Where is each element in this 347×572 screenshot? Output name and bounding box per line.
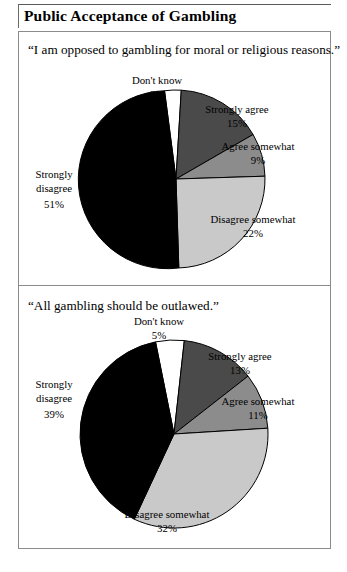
label-strongly-disagree-outlawed: Strongly disagree 39% (18, 378, 90, 422)
panel-opposed-quote: “I am opposed to gambling for moral or r… (28, 42, 340, 58)
label-percent: 39% (18, 408, 90, 422)
label-strongly-agree-outlawed: Strongly agree 13% (190, 350, 290, 377)
label-percent: 15% (187, 117, 287, 131)
label-name: Don't know (114, 315, 204, 329)
label-dont-know-opposed: Don't know 3% (112, 74, 202, 101)
label-name-line2: disagree (18, 182, 90, 196)
label-name-line2: disagree (18, 392, 90, 406)
title-top-rule (18, 4, 331, 5)
label-name: Disagree somewhat (198, 213, 308, 227)
label-dont-know-outlawed: Don't know 5% (114, 315, 204, 342)
label-name: Agree somewhat (206, 140, 310, 154)
slice-strongly-disagree (78, 91, 179, 269)
label-strongly-agree-opposed: Strongly agree 15% (187, 103, 287, 130)
panel-outlawed-quote: “All gambling should be outlawed.” (28, 298, 219, 314)
label-agree-somewhat-outlawed: Agree somewhat 11% (206, 395, 310, 422)
label-name: Don't know (112, 74, 202, 88)
label-percent: 3% (112, 88, 202, 102)
page-title: Public Acceptance of Gambling (24, 6, 236, 26)
label-name: Agree somewhat (206, 395, 310, 409)
label-percent: 9% (206, 154, 310, 168)
label-percent: 51% (18, 198, 90, 212)
label-name: Strongly agree (187, 103, 287, 117)
title-left-rule (18, 4, 19, 28)
label-name: Strongly agree (190, 350, 290, 364)
label-name-line1: Strongly (18, 168, 90, 182)
label-name-line1: Strongly (18, 378, 90, 392)
label-strongly-disagree-opposed: Strongly disagree 51% (18, 168, 90, 212)
label-percent: 22% (198, 227, 308, 241)
label-percent: 13% (190, 364, 290, 378)
label-agree-somewhat-opposed: Agree somewhat 9% (206, 140, 310, 167)
figure-title-block: Public Acceptance of Gambling (18, 4, 331, 30)
label-percent: 5% (114, 329, 204, 343)
label-name: Disagree somewhat (107, 508, 227, 522)
label-disagree-somewhat-outlawed: Disagree somewhat 32% (107, 508, 227, 535)
label-disagree-somewhat-opposed: Disagree somewhat 22% (198, 213, 308, 240)
label-percent: 32% (107, 522, 227, 536)
label-percent: 11% (206, 409, 310, 423)
